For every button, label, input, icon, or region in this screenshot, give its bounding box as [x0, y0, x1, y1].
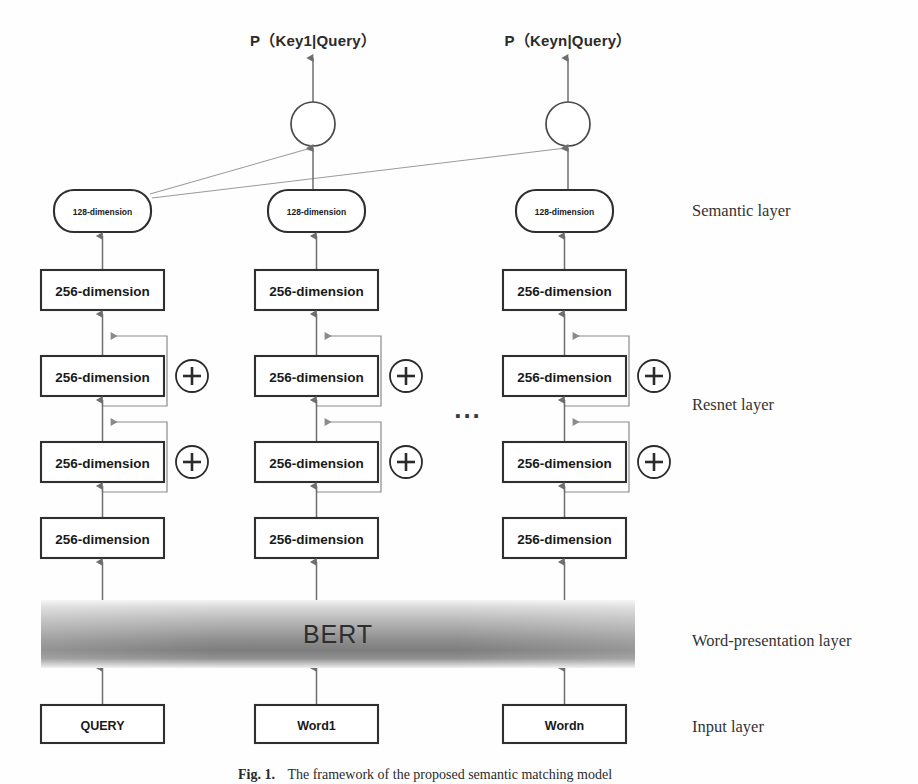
bert-label: BERT — [303, 620, 373, 648]
fan-line-to-node-n — [152, 148, 566, 198]
similarity-fan-lines — [150, 148, 566, 198]
input-box-query-label: QUERY — [81, 719, 126, 733]
fan-line-to-node-1 — [150, 148, 311, 194]
semantic-box-word1-label: 128-dimension — [287, 207, 347, 217]
resnet-box-wordn-3-label: 256-dimension — [517, 456, 612, 471]
layer-label-input: Input layer — [692, 717, 764, 736]
resnet-box-query-2-label: 256-dimension — [55, 370, 150, 385]
probability-label-key1: P（Key1|Query） — [250, 32, 376, 49]
resnet-box-word1-1-label: 256-dimension — [269, 284, 364, 299]
input-box-word1-label: Word1 — [297, 719, 336, 733]
semantic-box-query-label: 128-dimension — [73, 207, 133, 217]
resnet-box-wordn-2-label: 256-dimension — [517, 370, 612, 385]
input-box-wordn-label: Wordn — [545, 719, 584, 733]
layer-label-resnet: Resnet layer — [692, 395, 775, 414]
resnet-box-wordn-1-label: 256-dimension — [517, 284, 612, 299]
resnet-box-query-3-label: 256-dimension — [55, 456, 150, 471]
layer-label-word-presentation: Word-presentation layer — [692, 631, 852, 650]
architecture-diagram: P（Key1|Query） P（Keyn|Query） 128-dimensio… — [0, 0, 918, 784]
resnet-box-query-1-label: 256-dimension — [55, 284, 150, 299]
bert-band: BERT — [41, 600, 635, 668]
figure-caption-body: The framework of the proposed semantic m… — [287, 767, 612, 782]
resnet-box-word1-2-label: 256-dimension — [269, 370, 364, 385]
figure-container: P（Key1|Query） P（Keyn|Query） 128-dimensio… — [0, 0, 918, 784]
resnet-box-query-4-label: 256-dimension — [55, 532, 150, 547]
resnet-box-wordn-4-label: 256-dimension — [517, 532, 612, 547]
ellipsis-separator: ... — [454, 394, 482, 424]
softmax-node-1 — [291, 102, 335, 146]
figure-caption-number: Fig. 1. — [238, 767, 275, 782]
figure-caption: Fig. 1. The framework of the proposed se… — [238, 765, 612, 782]
resnet-box-word1-3-label: 256-dimension — [269, 456, 364, 471]
resnet-box-word1-4-label: 256-dimension — [269, 532, 364, 547]
figure-caption-text: Fig. 1. The framework of the proposed se… — [238, 765, 612, 782]
layer-labels: Semantic layer Resnet layer Word-present… — [692, 201, 852, 736]
probability-label-keyn: P（Keyn|Query） — [505, 32, 632, 49]
semantic-box-wordn-label: 128-dimension — [535, 207, 595, 217]
softmax-node-n — [546, 102, 590, 146]
output-arrows — [313, 58, 568, 102]
layer-label-semantic: Semantic layer — [692, 201, 791, 220]
